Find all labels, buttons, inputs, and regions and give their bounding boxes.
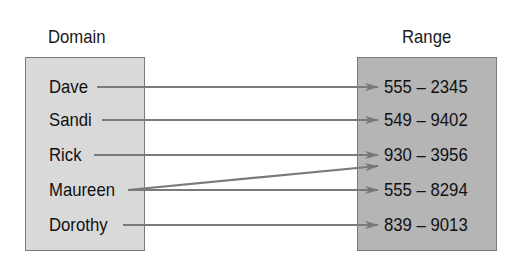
mapping-arrows	[0, 0, 523, 264]
arrow-maureen-rick-range	[128, 166, 378, 190]
